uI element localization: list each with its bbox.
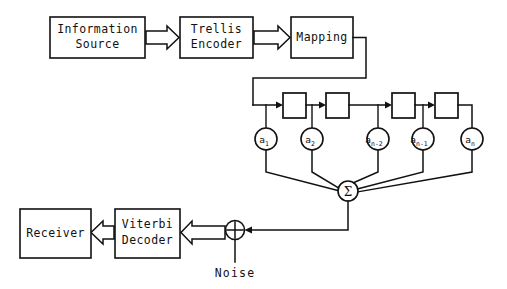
delay-element-1 [283, 93, 306, 118]
arrowhead-delay4 [428, 102, 435, 109]
tap-coefficient-an: an [461, 128, 483, 150]
wire-a-n-minus-2-to-sum [353, 150, 378, 183]
summation-node: Σ [338, 181, 358, 201]
noise-adder-node [226, 221, 245, 240]
arrow-decoder-to-receiver [91, 221, 114, 244]
block-viterbi-decoder: Viterbi Decoder [115, 209, 180, 258]
delay-element-2 [326, 93, 349, 118]
tap-coefficient-a-n-minus-2: an-2 [365, 128, 389, 150]
arrowhead-adder-input [245, 226, 253, 233]
delay-element-3 [392, 93, 415, 118]
block-receiver: Receiver [20, 209, 91, 258]
delay-element-4 [435, 93, 458, 118]
block-information-source: Information Source [50, 17, 145, 58]
wire-an-to-sum [357, 150, 472, 192]
tap-coefficient-a1: a1 [255, 128, 277, 150]
block-diagram-svg: Information Source Trellis Encoder Mappi… [0, 0, 507, 289]
arrow-source-to-encoder [146, 26, 179, 49]
arrowhead-delay1 [276, 102, 283, 109]
viterbi-decoder-label-line2: Decoder [122, 233, 173, 247]
arrow-encoder-to-mapping [254, 26, 290, 49]
arrow-adder-to-decoder [181, 221, 225, 244]
arrowhead-delay2 [319, 102, 326, 109]
tap-coefficient-a2: a2 [301, 128, 323, 150]
wire-a2-to-sum [312, 150, 342, 190]
wire-a-n-minus-1-to-sum [357, 150, 423, 189]
trellis-encoder-label-line2: Encoder [191, 37, 242, 51]
wire-sum-to-adder [249, 201, 348, 230]
noise-label: Noise [215, 266, 256, 280]
information-source-label-line1: Information [57, 22, 138, 36]
viterbi-decoder-label-line1: Viterbi [122, 217, 173, 231]
receiver-label: Receiver [26, 226, 85, 240]
summation-symbol: Σ [344, 185, 352, 199]
arrowhead-delay3 [385, 102, 392, 109]
wire-delay4-to-tap-an [458, 105, 472, 128]
tap-coefficient-a-n-minus-1: an-1 [410, 128, 434, 150]
trellis-encoder-label-line1: Trellis [191, 22, 242, 36]
information-source-label-line2: Source [76, 37, 120, 51]
mapping-label: Mapping [296, 30, 347, 44]
diagram-canvas: Information Source Trellis Encoder Mappi… [0, 0, 507, 289]
block-mapping: Mapping [291, 17, 353, 58]
wire-a1-to-sum [266, 150, 340, 191]
block-trellis-encoder: Trellis Encoder [180, 17, 253, 58]
